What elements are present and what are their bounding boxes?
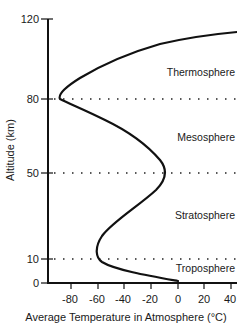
x-tick-40: 40 xyxy=(224,293,236,305)
x-tick-0: 0 xyxy=(175,293,181,305)
label-stratosphere: Stratosphere xyxy=(175,209,235,221)
y-tick-labels: 120 80 50 10 0 xyxy=(21,13,39,289)
x-tick-20: 20 xyxy=(198,293,210,305)
label-thermosphere: Thermosphere xyxy=(167,66,235,78)
layer-labels: Thermosphere Mesosphere Stratosphere Tro… xyxy=(167,66,235,274)
x-tick-labels: -80 -60 -40 -20 0 20 40 xyxy=(62,293,236,305)
axes xyxy=(47,19,237,283)
x-tick-minus60: -60 xyxy=(89,293,105,305)
x-tick-minus80: -80 xyxy=(62,293,78,305)
x-tick-minus20: -20 xyxy=(142,293,158,305)
y-tick-120: 120 xyxy=(21,13,39,25)
x-tick-minus40: -40 xyxy=(115,293,131,305)
y-tick-50: 50 xyxy=(27,167,39,179)
label-mesosphere: Mesosphere xyxy=(177,131,235,143)
y-tick-80: 80 xyxy=(27,93,39,105)
label-troposphere: Troposphere xyxy=(176,262,235,274)
atmosphere-temperature-chart: 120 80 50 10 0 -80 -60 -40 -20 0 20 40 A… xyxy=(0,0,237,325)
layer-boundaries xyxy=(54,99,237,259)
y-axis-title: Altitude (km) xyxy=(4,119,16,181)
y-tick-10: 10 xyxy=(27,253,39,265)
x-axis-title: Average Temperature in Atmosphere (°C) xyxy=(25,311,226,323)
y-tick-0: 0 xyxy=(33,277,39,289)
